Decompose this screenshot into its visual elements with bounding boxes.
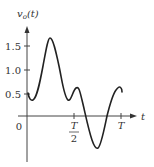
y-tick-label-1.5: 1.5	[5, 41, 21, 52]
y-tick-label-0.5: 0.5	[5, 89, 21, 100]
chart-svg: 1.5 1.0 0.5 T 2 T 0 t vo(t)	[0, 0, 154, 167]
x-tick-label-half-T-num: T	[71, 120, 79, 131]
x-tick-label-T: T	[118, 120, 126, 131]
x-axis-label: t	[141, 111, 146, 122]
y-tick-label-1.0: 1.0	[5, 65, 21, 76]
y-axis-arrow-icon	[25, 26, 30, 33]
x-tick-label-half-T-den: 2	[71, 133, 77, 144]
x-axis-arrow-icon	[130, 114, 137, 119]
y-axis-label: vo(t)	[17, 8, 39, 21]
origin-label: 0	[16, 121, 22, 132]
